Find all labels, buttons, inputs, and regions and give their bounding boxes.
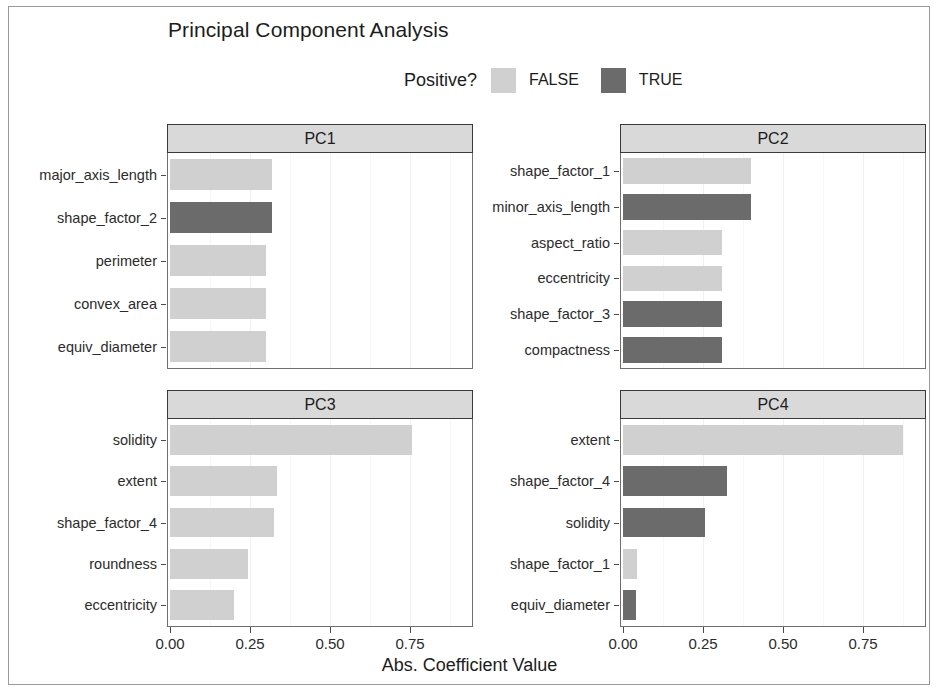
bar-solidity[interactable] <box>623 508 705 538</box>
panel-pc2: PC2 <box>620 124 926 369</box>
plot-area-pc4 <box>620 419 926 627</box>
bar-shape_factor_2[interactable] <box>170 202 272 233</box>
y-axis-label-shape_factor_1: shape_factor_1 <box>510 556 610 572</box>
bar-row <box>623 590 925 620</box>
y-axis-label-shape_factor_1: shape_factor_1 <box>510 163 610 179</box>
bar-row <box>170 425 472 455</box>
y-axis-tick <box>161 440 166 441</box>
panel-pc4: PC4 <box>620 390 926 627</box>
y-axis-tick <box>614 440 619 441</box>
x-axis-tick-label: 0.25 <box>688 635 717 652</box>
y-axis-label-equiv_diameter: equiv_diameter <box>58 339 157 355</box>
panel-pc3: PC3 <box>167 390 473 627</box>
y-axis-tick <box>614 243 619 244</box>
panel-strip-label: PC2 <box>757 130 788 148</box>
y-axis-label-extent: extent <box>118 473 158 489</box>
gridline-minor <box>823 153 824 368</box>
legend-key-true[interactable]: TRUE <box>601 68 705 93</box>
bar-row <box>623 337 925 363</box>
panel-strip-pc4: PC4 <box>620 390 926 419</box>
legend-key-false[interactable]: FALSE <box>491 68 601 93</box>
bar-row <box>170 331 472 362</box>
plot-area-pc2 <box>620 153 926 369</box>
y-axis-tick <box>614 523 619 524</box>
bar-aspect_ratio[interactable] <box>623 230 722 256</box>
gridline-minor <box>743 153 744 368</box>
bar-convex_area[interactable] <box>170 288 266 319</box>
y-axis-tick <box>161 261 166 262</box>
bar-major_axis_length[interactable] <box>170 159 272 190</box>
y-axis-label-major_axis_length: major_axis_length <box>39 167 157 183</box>
plot-area-pc1 <box>167 153 473 369</box>
y-axis-tick <box>161 175 166 176</box>
panel-strip-label: PC3 <box>304 396 335 414</box>
bar-row <box>170 466 472 496</box>
bar-row <box>623 158 925 184</box>
x-axis-tick <box>170 627 171 633</box>
y-axis-tick <box>614 314 619 315</box>
y-axis-tick <box>614 564 619 565</box>
bar-row <box>170 288 472 319</box>
panel-strip-pc1: PC1 <box>167 124 473 153</box>
y-axis-tick <box>614 481 619 482</box>
y-axis-tick <box>161 523 166 524</box>
bar-eccentricity[interactable] <box>623 266 722 292</box>
bar-row <box>623 508 925 538</box>
y-axis-tick <box>161 218 166 219</box>
y-axis-label-shape_factor_2: shape_factor_2 <box>57 210 157 226</box>
bar-extent[interactable] <box>170 466 277 496</box>
y-axis-tick <box>614 171 619 172</box>
y-axis-label-shape_factor_4: shape_factor_4 <box>57 515 157 531</box>
bar-row <box>623 549 925 579</box>
y-axis-label-shape_factor_4: shape_factor_4 <box>510 473 610 489</box>
bar-solidity[interactable] <box>170 425 412 455</box>
panel-strip-pc2: PC2 <box>620 124 926 153</box>
y-axis-tick <box>614 350 619 351</box>
gridline-major <box>863 153 864 368</box>
y-axis-tick <box>161 347 166 348</box>
x-axis-tick-label: 0.75 <box>395 635 424 652</box>
panel-strip-pc3: PC3 <box>167 390 473 419</box>
y-axis-tick <box>614 605 619 606</box>
x-axis-tick <box>863 627 864 633</box>
bar-extent[interactable] <box>623 425 903 455</box>
page-title: Principal Component Analysis <box>168 18 449 42</box>
y-axis-label-shape_factor_3: shape_factor_3 <box>510 306 610 322</box>
x-axis-tick <box>703 627 704 633</box>
bar-compactness[interactable] <box>623 337 722 363</box>
y-axis-tick <box>614 207 619 208</box>
bar-equiv_diameter[interactable] <box>170 331 266 362</box>
y-axis-label-solidity: solidity <box>113 432 157 448</box>
bar-shape_factor_1[interactable] <box>623 549 637 579</box>
x-axis-tick-label: 0.00 <box>155 635 184 652</box>
panel-pc1: PC1 <box>167 124 473 369</box>
bar-row <box>170 508 472 538</box>
x-axis-tick <box>623 627 624 633</box>
legend-label-true: TRUE <box>639 71 683 89</box>
bar-row <box>623 425 925 455</box>
bar-perimeter[interactable] <box>170 245 266 276</box>
x-axis-tick-label: 0.50 <box>768 635 797 652</box>
bar-shape_factor_4[interactable] <box>623 466 727 496</box>
bar-row <box>623 301 925 327</box>
bar-shape_factor_1[interactable] <box>623 158 751 184</box>
y-axis-label-eccentricity: eccentricity <box>537 270 610 286</box>
y-axis-label-compactness: compactness <box>525 342 610 358</box>
legend-label-false: FALSE <box>529 71 579 89</box>
bar-equiv_diameter[interactable] <box>623 590 636 620</box>
bar-minor_axis_length[interactable] <box>623 194 751 220</box>
y-axis-tick <box>161 304 166 305</box>
bar-row <box>623 230 925 256</box>
bar-shape_factor_3[interactable] <box>623 301 722 327</box>
y-axis-tick <box>161 564 166 565</box>
x-axis-title: Abs. Coefficient Value <box>0 655 939 676</box>
legend: Positive? FALSE TRUE <box>404 67 704 93</box>
bar-row <box>170 549 472 579</box>
bar-roundness[interactable] <box>170 549 248 579</box>
gridline-minor <box>903 153 904 368</box>
gridline-major <box>783 153 784 368</box>
gridline-minor <box>663 153 664 368</box>
bar-eccentricity[interactable] <box>170 590 234 620</box>
bar-shape_factor_4[interactable] <box>170 508 274 538</box>
x-axis-tick <box>250 627 251 633</box>
